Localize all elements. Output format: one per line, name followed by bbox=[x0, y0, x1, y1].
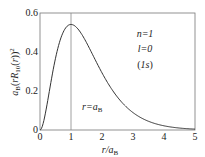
svg-text:0.6: 0.6 bbox=[26, 7, 39, 18]
svg-text:2: 2 bbox=[100, 131, 105, 142]
annotation-orbital: (1s) bbox=[137, 59, 153, 71]
chart: 0 1 2 3 4 5 0 0.2 0.4 0.6 r/aB aB(rR10(r… bbox=[0, 0, 205, 157]
svg-text:0.4: 0.4 bbox=[26, 46, 39, 57]
svg-text:1: 1 bbox=[69, 131, 74, 142]
annotation-l: l=0 bbox=[138, 43, 153, 54]
y-axis-label: aB(rR10(r))2 bbox=[8, 48, 22, 96]
radial-probability-curve bbox=[40, 24, 195, 130]
annotation-n: n=1 bbox=[137, 28, 154, 39]
svg-text:0: 0 bbox=[33, 124, 38, 135]
svg-text:0.2: 0.2 bbox=[26, 85, 39, 96]
plot-frame bbox=[40, 13, 195, 130]
annotation-vline: r=aB bbox=[82, 101, 103, 114]
x-tick-labels: 0 1 2 3 4 5 bbox=[38, 131, 198, 142]
svg-text:0: 0 bbox=[38, 131, 43, 142]
svg-text:5: 5 bbox=[193, 131, 198, 142]
svg-text:3: 3 bbox=[131, 131, 136, 142]
y-tick-labels: 0 0.2 0.4 0.6 bbox=[26, 7, 39, 135]
svg-text:4: 4 bbox=[162, 131, 167, 142]
x-axis-label: r/aB bbox=[102, 144, 119, 157]
